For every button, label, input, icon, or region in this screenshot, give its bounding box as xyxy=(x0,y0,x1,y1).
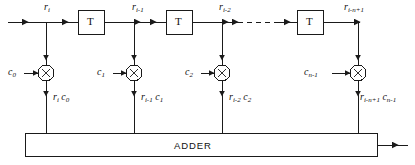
product-label-3: ri-2 c2 xyxy=(229,92,251,102)
coefficient-label-c-1: c1 xyxy=(97,67,105,77)
coefficient-label-c-n-1: cn-1 xyxy=(304,67,318,77)
product-label-4: ri-n+1 cn-1 xyxy=(360,92,396,102)
product-label-1: ri c0 xyxy=(53,92,69,102)
delay-box-1-label: T xyxy=(87,15,94,27)
adder-label: ADDER xyxy=(174,140,212,151)
signal-label-r-i: ri xyxy=(44,2,50,12)
product-label-2: ri-1 c1 xyxy=(141,92,163,102)
fir-filter-block-diagram: T T T ri ri-1 ri-2 ri-n+1 c0 c1 c2 cn-1 … xyxy=(0,0,415,165)
coefficient-label-c-0: c0 xyxy=(8,67,16,77)
signal-label-r-i-1: ri-1 xyxy=(132,2,144,12)
delay-box-2-label: T xyxy=(175,15,182,27)
signal-label-r-i-2: ri-2 xyxy=(219,2,231,12)
delay-box-3-label: T xyxy=(306,15,313,27)
signal-label-r-i-n-plus-1: ri-n+1 xyxy=(344,2,364,12)
coefficient-label-c-2: c2 xyxy=(185,67,193,77)
product-lines xyxy=(46,81,358,133)
